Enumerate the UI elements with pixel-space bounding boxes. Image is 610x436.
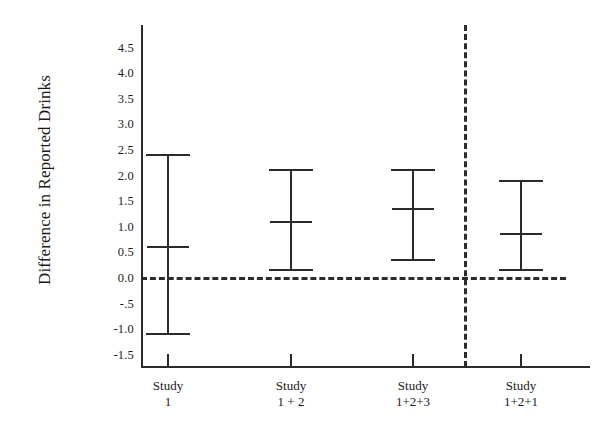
error-bar-stem — [412, 170, 414, 260]
category-label-line2: 1 + 2 — [231, 394, 351, 410]
vertical-separator-line — [464, 25, 467, 367]
category-label-line2: 1+2+1 — [461, 394, 581, 410]
x-axis-tick — [412, 354, 414, 367]
error-bar-cap-upper — [146, 154, 190, 156]
error-bar-estimate-marker — [500, 233, 542, 235]
y-axis-tick-label: -.5 — [88, 298, 134, 310]
x-axis-category-label: Study1+2+3 — [353, 378, 473, 410]
error-bar — [499, 0, 543, 436]
error-bar-cap-lower — [391, 259, 435, 261]
y-axis-tick-label: 1.5 — [88, 195, 134, 207]
y-axis-tick-label: 2.0 — [88, 170, 134, 182]
error-bar-estimate-marker — [270, 221, 312, 223]
x-axis-tick — [520, 354, 522, 367]
y-axis-tick-label: 1.0 — [88, 221, 134, 233]
x-axis-tick — [167, 354, 169, 367]
y-axis-tick-label: 3.0 — [88, 118, 134, 130]
error-bar — [269, 0, 313, 436]
y-axis-tick-label: 4.5 — [88, 42, 134, 54]
category-label-line2: 1 — [108, 394, 228, 410]
y-axis-tick-labels: 4.54.03.53.02.52.01.51.00.50.0-.5-1.0-1.… — [84, 0, 134, 436]
y-axis-line — [141, 25, 143, 368]
error-bar-estimate-marker — [392, 208, 434, 210]
error-bar-cap-lower — [499, 269, 543, 271]
error-bar-stem — [520, 181, 522, 271]
chart-figure: Difference in Reported Drinks 4.54.03.53… — [0, 0, 610, 436]
category-label-line1: Study — [353, 378, 473, 394]
error-bar-estimate-marker — [147, 246, 189, 248]
y-axis-tick-label: 4.0 — [88, 67, 134, 79]
y-axis-tick-label: 0.5 — [88, 246, 134, 258]
error-bar-cap-upper — [499, 180, 543, 182]
error-bar-cap-lower — [269, 269, 313, 271]
category-label-line2: 1+2+3 — [353, 394, 473, 410]
category-label-line1: Study — [108, 378, 228, 394]
error-bar-stem — [167, 155, 169, 334]
error-bar — [146, 0, 190, 436]
y-axis-tick-label: -1.5 — [88, 349, 134, 361]
category-label-line1: Study — [231, 378, 351, 394]
category-label-line1: Study — [461, 378, 581, 394]
x-axis-category-label: Study1 — [108, 378, 228, 410]
y-axis-tick-label: 0.0 — [88, 272, 134, 284]
y-axis-tick-label: 3.5 — [88, 93, 134, 105]
x-axis-category-label: Study1 + 2 — [231, 378, 351, 410]
y-axis-tick-label: -1.0 — [88, 323, 134, 335]
error-bar-cap-upper — [269, 169, 313, 171]
x-axis-category-label: Study1+2+1 — [461, 378, 581, 410]
y-axis-tick-label: 2.5 — [88, 144, 134, 156]
error-bar — [391, 0, 435, 436]
error-bar-cap-lower — [146, 333, 190, 335]
error-bar-cap-upper — [391, 169, 435, 171]
y-axis-title: Difference in Reported Drinks — [34, 15, 56, 345]
x-axis-tick — [290, 354, 292, 367]
